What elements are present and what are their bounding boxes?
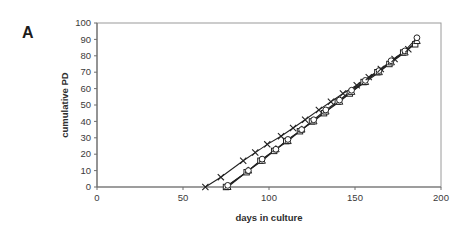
marker-circle xyxy=(323,107,329,113)
y-tick-label: 80 xyxy=(80,50,91,61)
marker-x xyxy=(328,99,334,105)
y-tick-label: 100 xyxy=(75,17,91,28)
y-tick-label: 60 xyxy=(80,83,91,94)
marker-circle xyxy=(414,35,420,41)
y-tick-label: 70 xyxy=(80,66,91,77)
x-tick-label: 0 xyxy=(94,192,99,203)
y-tick-label: 40 xyxy=(80,116,91,127)
marker-x xyxy=(252,149,258,155)
x-tick-label: 100 xyxy=(261,192,277,203)
marker-circle xyxy=(311,117,317,123)
marker-circle xyxy=(285,137,291,143)
x-tick-label: 150 xyxy=(347,192,363,203)
marker-circle xyxy=(225,182,231,188)
marker-x xyxy=(218,174,224,180)
marker-x xyxy=(278,133,284,139)
y-tick-label: 50 xyxy=(80,99,91,110)
marker-x xyxy=(290,125,296,131)
marker-circle xyxy=(299,127,305,133)
y-tick-label: 90 xyxy=(80,34,91,45)
marker-x xyxy=(340,90,346,96)
figure-panel: A 0501001502000102030405060708090100days… xyxy=(0,0,473,237)
y-axis-title: cumulative PD xyxy=(59,72,70,138)
y-tick-label: 30 xyxy=(80,132,91,143)
x-tick-label: 200 xyxy=(433,192,449,203)
marker-x xyxy=(240,158,246,164)
plot-area-border xyxy=(97,23,441,187)
marker-x xyxy=(316,107,322,113)
marker-circle xyxy=(245,168,251,174)
x-tick-label: 50 xyxy=(178,192,189,203)
y-tick-label: 20 xyxy=(80,148,91,159)
y-tick-label: 0 xyxy=(86,181,91,192)
y-tick-label: 10 xyxy=(80,165,91,176)
marker-circle xyxy=(259,156,265,162)
cumulative-pd-chart: 0501001502000102030405060708090100days i… xyxy=(0,0,473,237)
x-axis-title: days in culture xyxy=(235,212,302,223)
marker-x xyxy=(302,117,308,123)
marker-circle xyxy=(273,146,279,152)
marker-x xyxy=(264,141,270,147)
marker-circle xyxy=(337,97,343,103)
